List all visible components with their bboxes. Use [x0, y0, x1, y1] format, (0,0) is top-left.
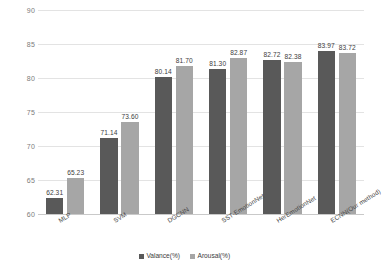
bar-group: [255, 10, 309, 214]
bar[interactable]: [155, 77, 173, 214]
y-axis-tick-label: 80: [9, 75, 35, 82]
bars-layer: 62.3165.2371.1473.6080.1481.7081.3082.87…: [38, 10, 364, 214]
bar[interactable]: [339, 53, 357, 214]
legend-item[interactable]: Valance(%): [139, 252, 180, 259]
legend-label: Arousal(%): [197, 252, 230, 259]
bar[interactable]: [209, 69, 227, 214]
bar[interactable]: [46, 198, 64, 214]
bar[interactable]: [176, 66, 194, 214]
y-axis-tick-label: 85: [9, 41, 35, 48]
legend-label: Valance(%): [146, 252, 180, 259]
x-axis-line: [38, 214, 364, 215]
bar[interactable]: [100, 138, 118, 214]
y-axis-tick-label: 60: [9, 211, 35, 218]
bar-group: [201, 10, 255, 214]
bar-group: [92, 10, 146, 214]
legend-color-swatch: [190, 254, 195, 259]
y-axis-tick-label: 90: [9, 7, 35, 14]
bar[interactable]: [318, 51, 336, 214]
y-axis-tick-label: 65: [9, 177, 35, 184]
bar[interactable]: [230, 58, 248, 214]
bar[interactable]: [67, 178, 85, 214]
bar-group: [310, 10, 364, 214]
y-axis-tick-label: 70: [9, 143, 35, 150]
plot-area: 62.3165.2371.1473.6080.1481.7081.3082.87…: [38, 10, 364, 214]
y-axis-tick-label: 75: [9, 109, 35, 116]
bar-group: [38, 10, 92, 214]
bar[interactable]: [284, 62, 302, 214]
legend-item[interactable]: Arousal(%): [190, 252, 230, 259]
bar[interactable]: [263, 60, 281, 214]
chart-legend: Valance(%)Arousal(%): [0, 252, 369, 259]
bar-group: [147, 10, 201, 214]
legend-color-swatch: [139, 254, 144, 259]
bar[interactable]: [121, 122, 139, 214]
